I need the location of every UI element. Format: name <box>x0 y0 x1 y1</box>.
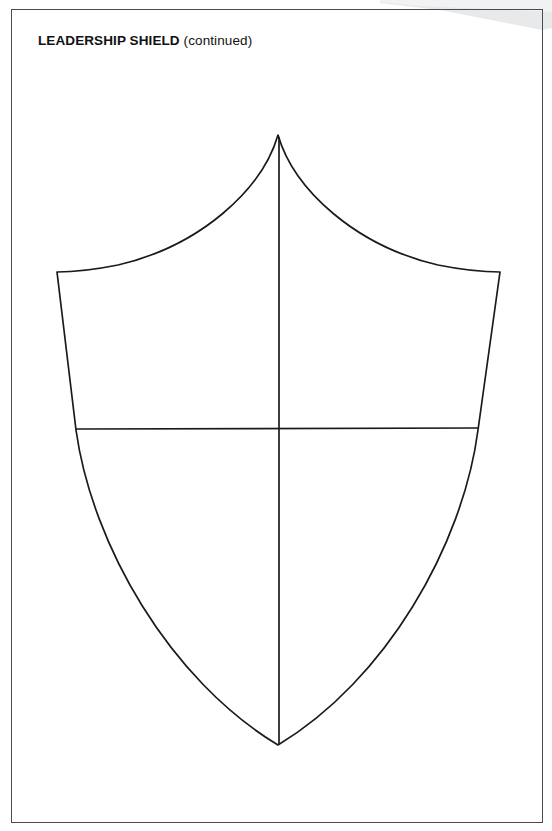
worksheet-page: LEADERSHIP SHIELD (continued) <box>0 0 552 831</box>
shield-drawing-area <box>0 0 552 831</box>
shield-svg <box>0 0 552 831</box>
shield-divider-horizontal <box>76 428 478 429</box>
